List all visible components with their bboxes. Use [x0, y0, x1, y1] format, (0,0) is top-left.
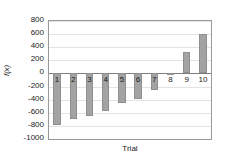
y-tick-label: 800: [10, 16, 44, 24]
y-tick-label: -1000: [10, 134, 44, 142]
y-tick-label: 0: [10, 68, 44, 76]
x-tick-label: 9: [179, 75, 195, 84]
y-tick-label: -200: [10, 82, 44, 90]
plot-area: 12345678910: [48, 20, 212, 140]
x-tick-label: 8: [162, 75, 178, 84]
x-axis-label: Trial: [48, 144, 212, 153]
bar[interactable]: [199, 34, 206, 73]
gridline: [49, 34, 211, 35]
x-tick-label: 2: [65, 75, 81, 84]
x-tick-label: 6: [130, 75, 146, 84]
x-tick-label: 5: [114, 75, 130, 84]
y-tick-label: -400: [10, 95, 44, 103]
y-tick-label: -800: [10, 121, 44, 129]
y-tick-label: 200: [10, 55, 44, 63]
gridline: [49, 126, 211, 127]
y-tick-label: 600: [10, 29, 44, 37]
gridline: [49, 21, 211, 22]
x-tick-label: 3: [81, 75, 97, 84]
bar-chart: f(x) 8006004002000-200-400-600-800-1000 …: [0, 0, 226, 161]
gridline: [49, 47, 211, 48]
y-axis-tick-labels: 8006004002000-200-400-600-800-1000: [10, 20, 44, 140]
bar[interactable]: [183, 52, 190, 73]
y-tick-label: 400: [10, 42, 44, 50]
x-tick-label: 10: [195, 75, 211, 84]
x-tick-label: 1: [49, 75, 65, 84]
y-tick-label: -600: [10, 108, 44, 116]
x-tick-label: 7: [146, 75, 162, 84]
gridline: [49, 139, 211, 140]
x-tick-label: 4: [98, 75, 114, 84]
